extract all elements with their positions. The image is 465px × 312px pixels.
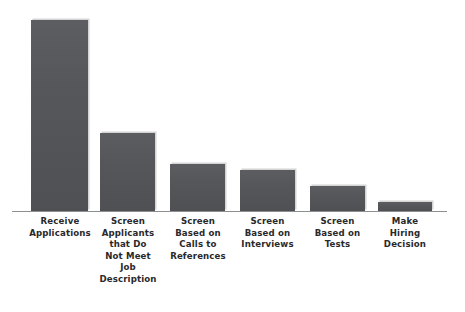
plot-area	[0, 0, 465, 212]
bar-fill	[100, 133, 155, 211]
bar-screen-applicants-not-meet-job-description[interactable]	[100, 133, 155, 211]
bar-fill	[240, 170, 295, 211]
x-tick-label-screen-based-on-tests: Screen Based on Tests	[299, 216, 376, 251]
bar-fill	[378, 202, 432, 211]
bar-make-hiring-decision[interactable]	[378, 202, 432, 211]
x-tick-label-make-hiring-decision: Make Hiring Decision	[368, 216, 442, 251]
x-tick-label-screen-based-on-calls-to-references: Screen Based on Calls to References	[160, 216, 236, 262]
bar-fill	[170, 164, 225, 211]
bar-fill	[310, 186, 365, 211]
bar-screen-based-on-interviews[interactable]	[240, 170, 295, 211]
bar-chart-figure: Receive Applications Screen Applicants t…	[0, 0, 465, 312]
bar-screen-based-on-tests[interactable]	[310, 186, 365, 211]
bar-receive-applications[interactable]	[31, 20, 88, 211]
x-axis-label-group: Receive Applications Screen Applicants t…	[0, 216, 465, 312]
bar-screen-based-on-calls-to-references[interactable]	[170, 164, 225, 211]
bar-fill	[31, 20, 88, 211]
x-tick-label-screen-applicants-not-meet-job-description: Screen Applicants that Do Not Meet Job D…	[92, 216, 164, 286]
x-axis-line	[12, 211, 447, 212]
x-tick-label-screen-based-on-interviews: Screen Based on Interviews	[229, 216, 306, 251]
